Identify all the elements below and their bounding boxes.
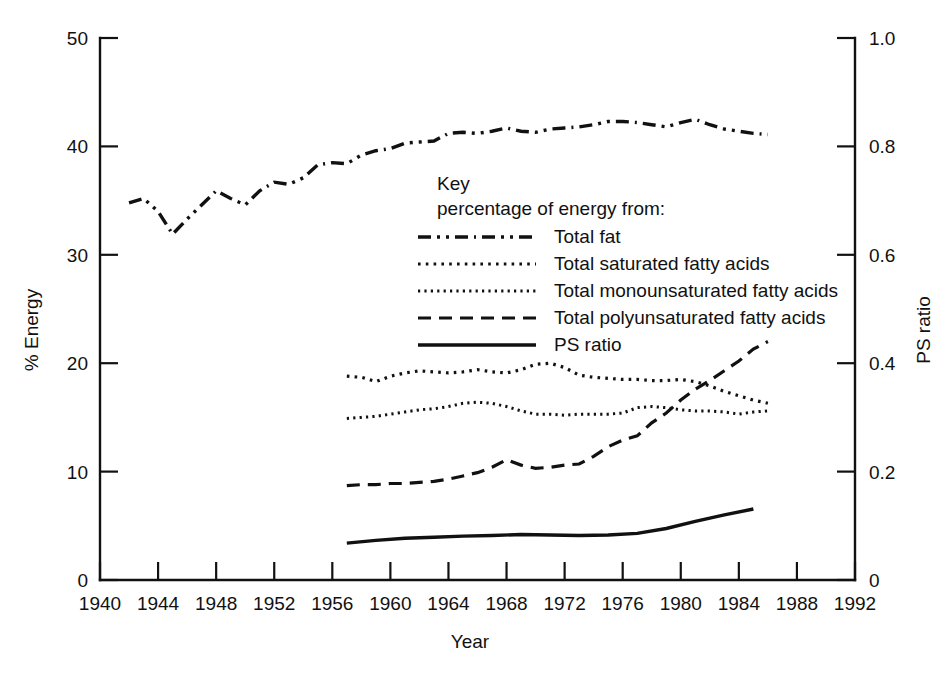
legend-entry-label: Total fat	[554, 226, 621, 247]
series-line	[347, 509, 754, 543]
bottom-tick-label: 1940	[79, 593, 121, 614]
left-axis-tick-labels: 01020304050	[67, 28, 88, 591]
left-tick-label: 0	[77, 570, 88, 591]
right-tick-label: 1.0	[869, 28, 895, 49]
right-axis-title: PS ratio	[913, 296, 934, 364]
axis-bottom: 1940194419481952195619601964196819721976…	[79, 562, 876, 652]
legend-entry-label: Total monounsaturated fatty acids	[554, 280, 838, 301]
axis-right: 00.20.40.60.81.0 PS ratio	[837, 28, 934, 591]
legend-entry-label: PS ratio	[554, 334, 622, 355]
bottom-tick-label: 1980	[660, 593, 702, 614]
legend-title: Key	[437, 173, 470, 194]
chart-canvas: 01020304050 % Energy 1940194419481952195…	[0, 0, 950, 675]
legend-entry: Total fat	[418, 226, 621, 247]
bottom-tick-label: 1948	[195, 593, 237, 614]
bottom-axis-tick-labels: 1940194419481952195619601964196819721976…	[79, 593, 876, 614]
left-tick-label: 10	[67, 462, 88, 483]
right-tick-label: 0.6	[869, 245, 895, 266]
right-tick-label: 0.8	[869, 136, 895, 157]
bottom-tick-label: 1992	[834, 593, 876, 614]
bottom-tick-label: 1976	[602, 593, 644, 614]
bottom-tick-label: 1964	[427, 593, 470, 614]
bottom-tick-label: 1944	[137, 593, 180, 614]
bottom-axis-title: Year	[451, 631, 490, 652]
left-tick-label: 20	[67, 353, 88, 374]
legend-entry: Total monounsaturated fatty acids	[418, 280, 838, 301]
right-axis-ticks	[837, 38, 855, 580]
bottom-tick-label: 1972	[543, 593, 585, 614]
axis-left: 01020304050 % Energy	[21, 28, 118, 591]
legend-entry-label: Total saturated fatty acids	[554, 253, 769, 274]
legend-entries: Total fatTotal saturated fatty acidsTota…	[418, 226, 838, 355]
left-axis-ticks	[100, 38, 118, 580]
right-axis-tick-labels: 00.20.40.60.81.0	[869, 28, 896, 591]
bottom-tick-label: 1952	[253, 593, 295, 614]
legend-entry: Total polyunsaturated fatty acids	[418, 307, 825, 328]
chart-figure: 01020304050 % Energy 1940194419481952195…	[0, 0, 950, 675]
left-tick-label: 40	[67, 136, 88, 157]
chart-legend: Key percentage of energy from: Total fat…	[418, 173, 838, 355]
legend-subtitle: percentage of energy from:	[437, 198, 665, 219]
bottom-tick-label: 1988	[776, 593, 818, 614]
series-line	[347, 402, 768, 418]
legend-entry: Total saturated fatty acids	[418, 253, 769, 274]
bottom-tick-label: 1968	[485, 593, 527, 614]
right-tick-label: 0	[869, 570, 880, 591]
bottom-axis-ticks	[100, 562, 855, 580]
left-tick-label: 50	[67, 28, 88, 49]
right-tick-label: 0.4	[869, 353, 896, 374]
right-tick-label: 0.2	[869, 462, 895, 483]
left-axis-title: % Energy	[21, 288, 42, 371]
bottom-tick-label: 1984	[718, 593, 761, 614]
left-tick-label: 30	[67, 245, 88, 266]
legend-entry: PS ratio	[418, 334, 622, 355]
bottom-tick-label: 1956	[311, 593, 353, 614]
legend-entry-label: Total polyunsaturated fatty acids	[554, 307, 825, 328]
bottom-tick-label: 1960	[369, 593, 411, 614]
